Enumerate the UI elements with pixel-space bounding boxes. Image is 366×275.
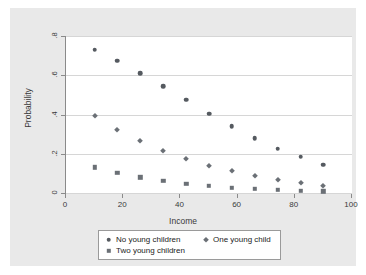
data-point xyxy=(275,177,281,183)
data-point xyxy=(298,154,303,159)
legend-item-two-young-children[interactable]: Two young children xyxy=(104,246,201,255)
legend-item-no-young-children[interactable]: No young children xyxy=(104,235,201,244)
data-point xyxy=(252,173,258,179)
data-point xyxy=(321,189,325,193)
x-axis-tick xyxy=(294,194,295,198)
x-axis-tick-label: 80 xyxy=(289,200,298,209)
data-point xyxy=(206,163,212,169)
data-point xyxy=(252,136,257,141)
graph-region: Probability 0.2.4.6.8 Income 02040608010… xyxy=(10,8,356,266)
data-point xyxy=(115,171,119,175)
data-point xyxy=(230,124,235,129)
data-point xyxy=(115,58,120,63)
data-point xyxy=(184,97,189,102)
data-point xyxy=(229,168,235,174)
x-axis-tick xyxy=(179,194,180,198)
gridline xyxy=(66,154,352,155)
data-point xyxy=(207,111,212,116)
data-point xyxy=(92,165,96,169)
x-axis-tick xyxy=(122,194,123,198)
diamond-marker-icon xyxy=(201,235,210,244)
x-axis-tick-label: 60 xyxy=(232,200,241,209)
y-axis-tick-label: .4 xyxy=(50,109,59,119)
data-point xyxy=(183,156,189,162)
data-point xyxy=(92,47,97,52)
legend-item-one-young-child[interactable]: One young child xyxy=(201,235,271,244)
gridline xyxy=(66,36,352,37)
data-point xyxy=(275,147,280,152)
data-point xyxy=(230,185,234,189)
chart-legend: No young children One young child Two yo… xyxy=(98,230,281,260)
data-point xyxy=(253,187,257,191)
x-axis-tick xyxy=(237,194,238,198)
data-point xyxy=(161,179,165,183)
data-point xyxy=(138,71,143,76)
data-point xyxy=(321,162,326,167)
y-axis-tick-label: 0 xyxy=(50,188,59,198)
circle-marker-icon xyxy=(104,235,113,244)
x-axis-tick xyxy=(65,194,66,198)
legend-row: No young children One young child xyxy=(104,234,275,245)
data-point xyxy=(91,113,97,119)
data-point xyxy=(320,182,326,188)
x-axis-tick-label: 20 xyxy=(118,200,127,209)
data-point xyxy=(275,188,279,192)
data-point xyxy=(138,175,142,179)
y-axis-tick-label: .2 xyxy=(50,148,59,158)
legend-row: Two young children xyxy=(104,245,275,256)
y-axis-tick-label: .8 xyxy=(50,31,59,41)
square-marker-icon xyxy=(104,246,113,255)
legend-label: One young child xyxy=(213,235,271,244)
data-point xyxy=(297,180,303,186)
gridline xyxy=(66,75,352,76)
data-point xyxy=(298,188,302,192)
x-axis-tick xyxy=(351,194,352,198)
x-axis-title: Income xyxy=(10,216,356,226)
x-axis-tick-label: 40 xyxy=(175,200,184,209)
chart-screenshot: Probability 0.2.4.6.8 Income 02040608010… xyxy=(0,0,366,275)
plot-area xyxy=(65,36,352,194)
legend-label: Two young children xyxy=(116,246,185,255)
gridline xyxy=(66,193,352,194)
data-point xyxy=(207,184,211,188)
legend-label: No young children xyxy=(116,235,180,244)
y-axis-title: Probability xyxy=(23,88,33,128)
data-point xyxy=(114,127,120,133)
x-axis-tick-label: 100 xyxy=(344,200,357,209)
data-point xyxy=(137,138,143,144)
y-axis-tick-label: .6 xyxy=(50,70,59,80)
x-axis-tick-label: 0 xyxy=(63,200,67,209)
data-point xyxy=(184,182,188,186)
data-point xyxy=(161,84,166,89)
